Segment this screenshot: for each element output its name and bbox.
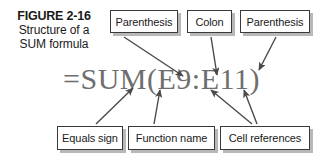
callout-label: Function name [136,132,207,144]
callout-function-name: Function name [128,126,215,150]
callout-equals-sign: Equals sign [57,126,123,150]
callout-parenthesis-close: Parenthesis [240,10,310,33]
figure-number: FIGURE 2-16 [4,9,104,23]
callout-label: Parenthesis [247,16,304,28]
callout-colon: Colon [187,10,232,33]
figure-caption: FIGURE 2-16 Structure of a SUM formula [4,9,104,51]
callout-label: Cell references [229,132,301,144]
callout-label: Colon [195,16,223,28]
callout-label: Parenthesis [116,16,173,28]
callout-parenthesis-open: Parenthesis [110,10,178,33]
callout-label: Equals sign [62,132,118,144]
figure-diagram: FIGURE 2-16 Structure of a SUM formula P… [0,0,323,162]
figure-title-line-1: Structure of a [4,23,104,37]
figure-title-line-2: SUM formula [4,37,104,51]
formula-text: =SUM(E9:E11) [0,62,323,96]
callout-cell-references: Cell references [220,126,310,150]
